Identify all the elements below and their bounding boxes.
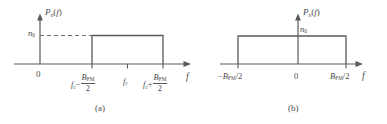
panel-a: Pn(f) n0 0 fc−BFM2 fc fc+BFM2 f (a): [0, 0, 210, 124]
panel-b-x-axis-label: f: [362, 72, 365, 82]
panel-a-y-axis-label: Pn(f): [45, 8, 62, 18]
panel-b-y-axis-label: Pn(f): [303, 8, 320, 18]
panel-a-tick-label-center: fc: [123, 77, 128, 87]
panel-b-tick-lower-subscript: FM: [228, 75, 236, 81]
panel-a-tick-upper-fraction: BFM2: [153, 73, 168, 92]
panel-b-caption: (b): [288, 103, 299, 113]
panel-a-caption: (a): [95, 103, 105, 113]
panel-b-tick-lower-suffix: /2: [236, 71, 243, 81]
panel-a-y-axis: [37, 14, 43, 65]
panel-a-x-axis-label: f: [186, 73, 189, 83]
panel-b: Pn(f) n0 −BFM/2 0 BFM/2 f (b): [210, 0, 387, 124]
panel-b-y-axis: [295, 14, 301, 65]
panel-a-tick-label-lower: fc−BFM2: [71, 73, 95, 92]
panel-b-level-label: n0: [300, 25, 307, 35]
panel-a-level-label: n0: [28, 29, 35, 39]
panel-b-spectrum-rect: [238, 36, 346, 64]
panel-b-tick-label-zero: 0: [294, 72, 298, 82]
panel-b-tick-upper-subscript: FM: [335, 75, 343, 81]
panel-b-level-subscript: 0: [304, 28, 307, 34]
panel-a-tick-center-base-sub: c: [125, 80, 127, 86]
panel-b-tick-upper-suffix: /2: [343, 71, 350, 81]
panel-a-level-subscript: 0: [32, 32, 35, 38]
panel-b-plot: [210, 0, 387, 124]
panel-a-plot: [0, 0, 210, 124]
panel-a-tick-upper-denominator: 2: [153, 84, 168, 93]
panel-a-tick-lower-fraction: BFM2: [81, 73, 96, 92]
panel-a-y-axis-paren-close: ): [59, 7, 62, 17]
panel-a-tick-lower-denominator: 2: [81, 84, 96, 93]
panel-b-tick-label-lower: −BFM/2: [218, 72, 242, 82]
panel-a-tick-lower-num-subscript: FM: [87, 76, 95, 82]
panel-b-x-axis: [220, 61, 363, 67]
panel-b-tick-label-upper: BFM/2: [330, 72, 349, 82]
panel-a-origin-label: 0: [36, 70, 41, 79]
panel-a-spectrum-rect: [92, 36, 163, 65]
panel-a-tick-upper-num-subscript: FM: [159, 76, 167, 82]
panel-b-tick-zero-symbol: 0: [294, 71, 298, 81]
panel-b-y-axis-paren-close: ): [317, 7, 320, 17]
spectrum-figure: Pn(f) n0 0 fc−BFM2 fc fc+BFM2 f (a): [0, 0, 387, 124]
panel-a-tick-label-upper: fc+BFM2: [143, 73, 167, 92]
